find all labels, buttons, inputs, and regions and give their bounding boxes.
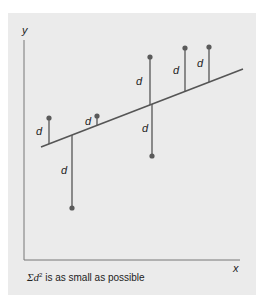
residual-label: d <box>61 164 68 176</box>
data-point <box>147 54 152 59</box>
data-point <box>46 115 51 120</box>
residuals-group: ddddddd <box>36 44 212 210</box>
caption-sigma-d: Σd <box>27 271 39 283</box>
residual-label: d <box>85 115 92 127</box>
x-axis-label: x <box>232 262 239 274</box>
caption-text: is as small as possible <box>42 272 144 283</box>
caption: Σd2 is as small as possible <box>27 271 145 283</box>
y-axis-label: y <box>21 24 29 36</box>
residual-label: d <box>142 122 149 134</box>
data-point <box>94 113 99 118</box>
residual-label: d <box>36 125 43 137</box>
residual-label: d <box>197 57 204 69</box>
data-point <box>149 153 154 158</box>
residual-label: d <box>136 75 143 87</box>
data-point <box>69 205 74 210</box>
data-point <box>206 44 211 49</box>
data-point <box>182 45 187 50</box>
least-squares-diagram: y x ddddddd <box>0 0 272 303</box>
residual-label: d <box>173 64 180 76</box>
